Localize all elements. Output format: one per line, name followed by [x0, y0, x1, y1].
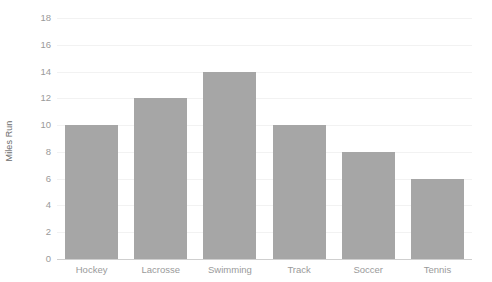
- bar-swimming[interactable]: [203, 72, 256, 259]
- y-axis-tick-label: 0: [27, 254, 51, 264]
- bar-chart: Miles Run HockeyLacrosseSwimmingTrackSoc…: [0, 0, 492, 282]
- gridline: [57, 259, 472, 260]
- bar-tennis[interactable]: [411, 179, 464, 259]
- y-axis-tick-label: 6: [27, 174, 51, 184]
- y-axis-tick-label: 2: [27, 227, 51, 237]
- bar-track[interactable]: [273, 125, 326, 259]
- x-axis-tick-labels: HockeyLacrosseSwimmingTrackSoccerTennis: [57, 263, 472, 279]
- bar-soccer[interactable]: [342, 152, 395, 259]
- y-axis-tick-label: 8: [27, 147, 51, 157]
- x-axis-tick-label: Tennis: [403, 263, 472, 277]
- bar-hockey[interactable]: [65, 125, 118, 259]
- y-axis-tick-label: 4: [27, 200, 51, 210]
- y-axis-tick-label: 16: [27, 40, 51, 50]
- y-axis-tick-label: 12: [27, 93, 51, 103]
- y-axis-title: Miles Run: [0, 0, 18, 282]
- x-axis-tick-label: Soccer: [334, 263, 403, 277]
- y-axis-tick-label: 14: [27, 67, 51, 77]
- y-axis-tick-label: 10: [27, 120, 51, 130]
- x-axis-tick-label: Hockey: [57, 263, 126, 277]
- plot-area: [57, 18, 472, 259]
- y-axis-tick-label: 18: [27, 13, 51, 23]
- x-axis-tick-label: Lacrosse: [126, 263, 195, 277]
- x-axis-tick-label: Swimming: [195, 263, 264, 277]
- bars-layer: [57, 18, 472, 259]
- x-axis-tick-label: Track: [265, 263, 334, 277]
- bar-lacrosse[interactable]: [134, 98, 187, 259]
